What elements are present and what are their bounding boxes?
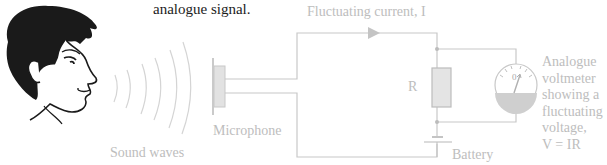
resistor-label: R — [408, 80, 417, 94]
current-arrow-icon — [368, 27, 380, 39]
voltmeter-label: Analogue voltmeter showing a fluctuating… — [542, 54, 607, 153]
voltmeter-label-line: V = IR — [542, 137, 607, 154]
voltmeter-label-line: showing a — [542, 87, 607, 104]
voltmeter-reading: 0 — [512, 73, 517, 82]
circuit-wires — [225, 33, 516, 157]
microphone-icon — [213, 58, 225, 115]
battery-icon — [424, 137, 452, 157]
sound-waves-icon — [114, 42, 191, 134]
voltmeter-label-line: fluctuating — [542, 104, 607, 121]
junction-dot — [435, 120, 439, 124]
person-head-icon — [7, 6, 97, 124]
voltmeter-label-line: Analogue — [542, 54, 607, 71]
microphone-label: Microphone — [213, 124, 281, 138]
circuit-diagram — [0, 0, 607, 165]
voltmeter-label-line: voltmeter — [542, 71, 607, 88]
voltmeter-label-line: voltage, — [542, 120, 607, 137]
current-label: Fluctuating current, I — [307, 5, 426, 19]
junction-dot — [435, 47, 439, 51]
resistor-icon — [432, 68, 451, 107]
sound-waves-label: Sound waves — [110, 146, 184, 160]
battery-label: Battery — [452, 148, 493, 162]
